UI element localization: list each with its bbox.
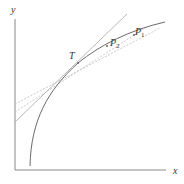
tangent-line bbox=[15, 14, 127, 122]
secant-line-p1 bbox=[15, 28, 160, 104]
point-t-base: T bbox=[69, 50, 75, 61]
tangent-secant-diagram: y x T P2 P1 bbox=[0, 0, 184, 184]
point-t-label: T bbox=[69, 51, 75, 61]
point-p1-label: P1 bbox=[135, 27, 145, 39]
y-axis-label: y bbox=[11, 5, 15, 15]
x-axis-label: x bbox=[173, 166, 177, 176]
point-p1-sub: 1 bbox=[141, 31, 145, 39]
function-curve bbox=[30, 22, 165, 166]
point-p2-label: P2 bbox=[110, 38, 120, 50]
point-p2-marker bbox=[106, 45, 108, 47]
diagram-canvas bbox=[0, 0, 184, 184]
secant-line-p2 bbox=[15, 28, 145, 112]
point-t-marker bbox=[77, 62, 79, 64]
point-p2-sub: 2 bbox=[116, 42, 120, 50]
